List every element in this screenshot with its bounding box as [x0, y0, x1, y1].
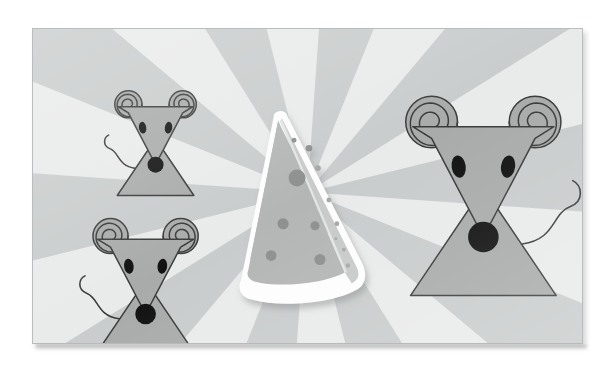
picture-frame	[32, 28, 583, 344]
mouse-nose	[148, 157, 164, 173]
frame-drop-shadow	[36, 345, 587, 350]
mouse-nose	[468, 222, 499, 252]
scene-artboard	[33, 29, 582, 343]
illustration-stage	[0, 0, 615, 371]
mouse-nose	[135, 304, 156, 325]
